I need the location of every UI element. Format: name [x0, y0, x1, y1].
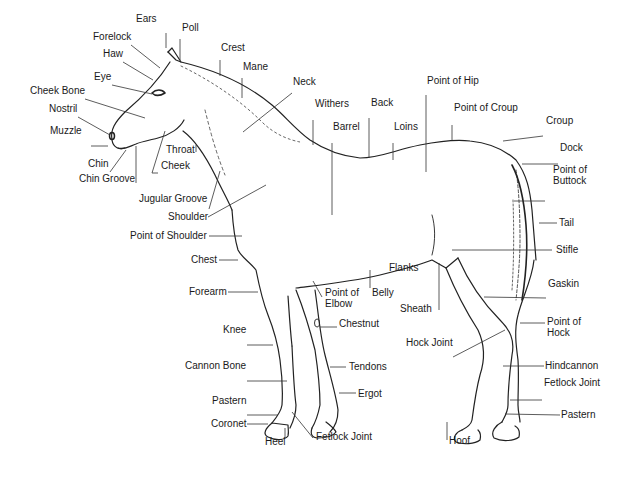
label-loins: Loins [394, 121, 418, 132]
label-chest: Chest [191, 254, 217, 265]
label-muzzle: Muzzle [50, 125, 82, 136]
label-point-of-buttock: Point ofButtock [553, 164, 613, 186]
label-jugular-groove: Jugular Groove [139, 193, 207, 204]
label-pastern-hind: Pastern [561, 409, 595, 420]
label-poll: Poll [182, 22, 199, 33]
label-chin: Chin [88, 158, 109, 169]
label-dock: Dock [560, 142, 583, 153]
label-hindcannon: Hindcannon [545, 360, 598, 371]
label-point-of-croup: Point of Croup [454, 102, 518, 113]
label-cheek: Cheek [161, 160, 190, 171]
label-point-of-hip: Point of Hip [427, 75, 479, 86]
label-pastern-front: Pastern [212, 395, 246, 406]
label-chestnut: Chestnut [339, 318, 379, 329]
label-knee: Knee [223, 324, 246, 335]
horse-anatomy-diagram: EarsPollCrestForelockHawManeEyeNeckCheek… [0, 0, 631, 481]
label-crest: Crest [221, 42, 245, 53]
label-forelock: Forelock [93, 31, 131, 42]
label-sheath: Sheath [400, 303, 432, 314]
label-hock-joint: Hock Joint [406, 337, 453, 348]
label-shoulder: Shoulder [168, 211, 208, 222]
label-coronet: Coronet [211, 418, 247, 429]
label-withers: Withers [315, 98, 349, 109]
label-throat: Throat [166, 144, 195, 155]
label-stifle: Stifle [556, 244, 578, 255]
label-nostril: Nostril [49, 103, 77, 114]
label-fetlock-joint-hind: Fetlock Joint [544, 377, 600, 388]
label-ears: Ears [136, 13, 157, 24]
label-point-of-hock: Point ofHock [547, 316, 607, 338]
label-ergot: Ergot [358, 388, 382, 399]
label-mane: Mane [243, 61, 268, 72]
label-gaskin: Gaskin [548, 278, 579, 289]
label-haw: Haw [103, 48, 123, 59]
label-croup: Croup [546, 115, 573, 126]
label-hoof: Hoof [449, 435, 470, 446]
label-fetlock-joint-front: Fetlock Joint [316, 431, 372, 442]
label-flanks: Flanks [389, 262, 418, 273]
label-neck: Neck [293, 76, 316, 87]
label-barrel: Barrel [333, 121, 360, 132]
label-point-of-shoulder: Point of Shoulder [130, 230, 207, 241]
label-heel: Heel [265, 436, 286, 447]
label-eye: Eye [94, 71, 111, 82]
label-cannon-bone: Cannon Bone [185, 360, 246, 371]
label-cheek-bone: Cheek Bone [30, 85, 85, 96]
label-back: Back [371, 97, 393, 108]
label-tail: Tail [559, 217, 574, 228]
label-belly: Belly [372, 287, 394, 298]
label-forearm: Forearm [189, 286, 227, 297]
label-tendons: Tendons [349, 361, 387, 372]
label-chin-groove: Chin Groove [79, 173, 135, 184]
